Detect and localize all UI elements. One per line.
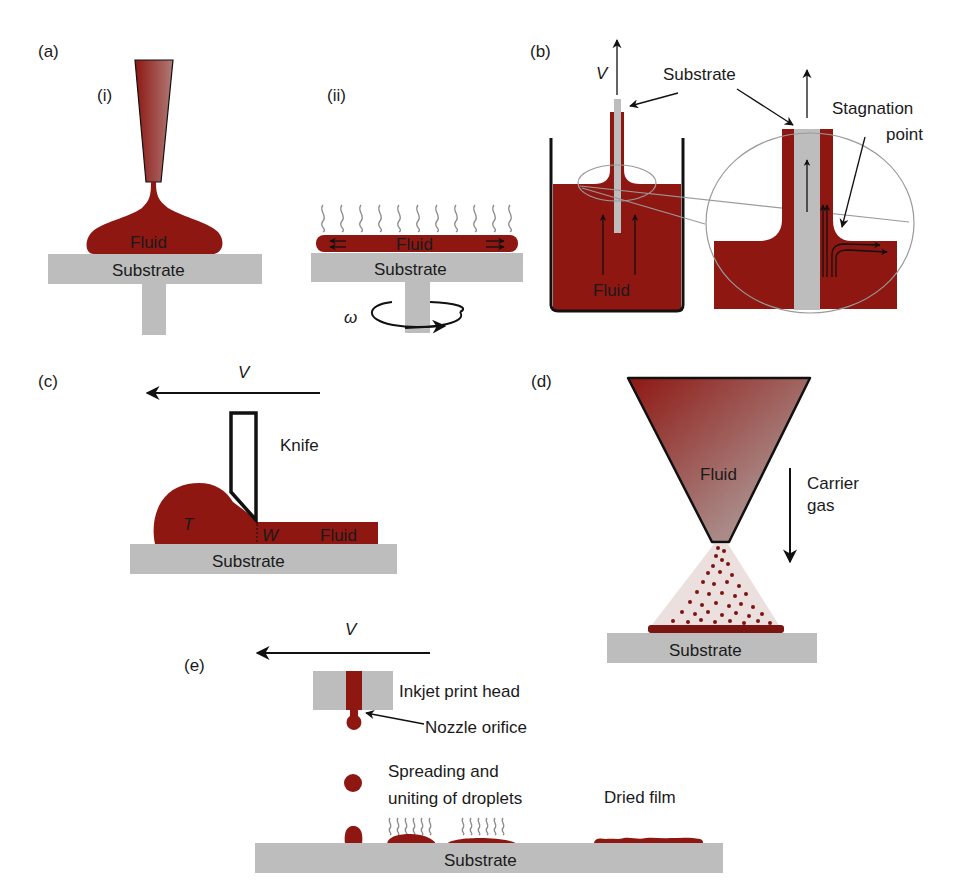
panel-c-label: (c) bbox=[38, 372, 58, 391]
panel-b-dip-coating: (b) V Substrate Fluid bbox=[530, 40, 923, 314]
substrate-pointer-right bbox=[737, 89, 793, 125]
solution-deposition-figure: (a) (i) Fluid Substrate (ii) bbox=[0, 0, 966, 893]
falling-droplet bbox=[344, 774, 362, 792]
panel-a-ii-spin-coating: (ii) Fluid bbox=[311, 86, 523, 333]
velocity-label-e: V bbox=[345, 620, 358, 639]
vapor-waves bbox=[322, 205, 512, 232]
panel-c-doctor-blade: (c) V Knife T W Fluid Substrate bbox=[38, 363, 397, 574]
nozzle-label: Nozzle orifice bbox=[425, 718, 527, 737]
fluid-label-c: Fluid bbox=[320, 526, 357, 545]
fluid-label-ii: Fluid bbox=[396, 235, 433, 254]
ink-channel bbox=[346, 671, 362, 710]
substrate-stand-i bbox=[142, 284, 166, 335]
sub-ii-label: (ii) bbox=[327, 86, 346, 105]
gap-label-W: W bbox=[262, 526, 280, 545]
substrate-label-e: Substrate bbox=[444, 851, 517, 870]
vapor-waves-e bbox=[389, 818, 504, 835]
spreading-label-1: Spreading and bbox=[388, 762, 499, 781]
landed-droplet bbox=[345, 826, 363, 844]
omega-symbol: ω bbox=[344, 308, 357, 327]
panel-e-label: (e) bbox=[184, 656, 205, 675]
printhead-label: Inkjet print head bbox=[399, 682, 520, 701]
substrate-pointer-left bbox=[630, 93, 678, 106]
ejecting-droplet bbox=[347, 710, 362, 730]
carrier-label-1: Carrier bbox=[807, 474, 859, 493]
nozzle-icon bbox=[135, 60, 173, 182]
knife-label: Knife bbox=[280, 436, 319, 455]
fluid-label-i: Fluid bbox=[130, 233, 167, 252]
substrate-label-i: Substrate bbox=[112, 261, 185, 280]
substrate-stand-ii bbox=[405, 282, 430, 333]
carrier-label-2: gas bbox=[807, 496, 834, 515]
spray-droplets bbox=[648, 544, 784, 633]
panel-a-i-drop-casting: (i) Fluid Substrate bbox=[48, 60, 262, 335]
fluid-label-d: Fluid bbox=[700, 465, 737, 484]
panel-d-label: (d) bbox=[531, 372, 552, 391]
spreading-droplet bbox=[387, 834, 436, 844]
panel-a-label: (a) bbox=[38, 42, 59, 61]
stagnation-pointer bbox=[842, 137, 865, 227]
stagnation-label-2: point bbox=[886, 125, 923, 144]
spray-funnel-icon bbox=[628, 378, 810, 542]
substrate-label-ii: Substrate bbox=[374, 260, 447, 279]
panel-b-label: (b) bbox=[530, 42, 551, 61]
dipping-substrate bbox=[614, 99, 621, 233]
panel-a: (a) (i) Fluid Substrate (ii) bbox=[38, 42, 523, 335]
beaker: Fluid bbox=[551, 99, 683, 314]
stagnation-label-1: Stagnation bbox=[832, 99, 913, 118]
substrate-label-d: Substrate bbox=[669, 641, 742, 660]
panel-d-spray-coating: (d) Fluid Carrier gas Substrate bbox=[531, 372, 859, 663]
velocity-label-b: V bbox=[596, 64, 609, 83]
substrate-label-b: Substrate bbox=[663, 65, 736, 84]
reservoir-label-T: T bbox=[183, 515, 195, 534]
sub-i-label: (i) bbox=[97, 86, 112, 105]
spreading-label-2: uniting of droplets bbox=[388, 789, 522, 808]
velocity-label-c: V bbox=[238, 363, 251, 382]
substrate-label-c: Substrate bbox=[212, 552, 285, 571]
fluid-label-b: Fluid bbox=[593, 281, 630, 300]
dried-film-label: Dried film bbox=[604, 788, 676, 807]
nozzle-pointer bbox=[366, 713, 424, 724]
